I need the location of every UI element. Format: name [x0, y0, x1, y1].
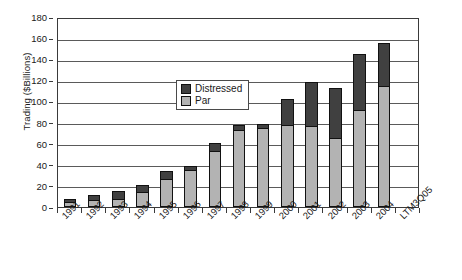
- x-axis-tick-mark: [371, 208, 372, 213]
- y-axis-tick-label: 100: [31, 98, 47, 108]
- bar-segment-par: [329, 139, 342, 207]
- trading-volume-stacked-bar-chart: Trading ($Billions) 02040608010012014016…: [0, 0, 462, 280]
- bar-segment-par: [257, 129, 270, 207]
- bar-1997: [209, 19, 222, 207]
- y-axis-tick-mark: [49, 123, 53, 124]
- bar-1992: [88, 19, 101, 207]
- bar-LTM3Q05: [402, 19, 415, 207]
- x-axis-tick-mark: [347, 208, 348, 213]
- y-axis-tick-mark: [49, 165, 53, 166]
- x-axis-tick-mark: [298, 208, 299, 213]
- y-axis-tick-label: 60: [36, 140, 47, 150]
- bar-segment-distressed: [329, 88, 342, 140]
- legend-item-par: Par: [181, 96, 242, 106]
- bar-group: [58, 19, 418, 207]
- x-axis-label-group: 1991199219931994199519961997199819992000…: [57, 214, 419, 278]
- x-axis-tick-mark: [250, 208, 251, 213]
- x-axis-tick-mark: [274, 208, 275, 213]
- legend-swatch-distressed-icon: [181, 84, 191, 94]
- legend-label-par: Par: [195, 96, 211, 106]
- bar-1993: [112, 19, 125, 207]
- legend-item-distressed: Distressed: [181, 84, 242, 94]
- x-axis-tick-mark: [57, 208, 58, 213]
- y-axis-tick-mark: [49, 60, 53, 61]
- chart-legend: Distressed Par: [176, 80, 249, 110]
- x-axis-tick-mark: [322, 208, 323, 213]
- y-axis-tick-mark: [49, 144, 53, 145]
- y-axis-tick-group: 020406080100120140160180: [0, 18, 53, 208]
- bar-segment-distressed: [378, 43, 391, 86]
- bar-segment-distressed: [209, 143, 222, 153]
- legend-swatch-par-icon: [181, 96, 191, 106]
- x-axis-tick-mark: [178, 208, 179, 213]
- bar-segment-distressed: [353, 54, 366, 111]
- y-axis-tick-label: 140: [31, 55, 47, 65]
- y-axis-tick-mark: [49, 102, 53, 103]
- y-axis-tick-mark: [49, 186, 53, 187]
- bar-1995: [160, 19, 173, 207]
- bar-segment-distressed: [160, 171, 173, 179]
- x-axis-tick-mark: [105, 208, 106, 213]
- x-axis-tick-mark: [395, 208, 396, 213]
- y-axis-tick-mark: [49, 18, 53, 19]
- y-axis-tick-label: 120: [31, 77, 47, 87]
- bar-2004: [378, 19, 391, 207]
- bar-2002: [329, 19, 342, 207]
- bar-segment-par: [233, 131, 246, 207]
- bar-1999: [257, 19, 270, 207]
- x-axis-tick-mark: [226, 208, 227, 213]
- y-axis-tick-label: 40: [36, 161, 47, 171]
- y-axis-tick-mark: [49, 81, 53, 82]
- x-axis-tick-mark: [202, 208, 203, 213]
- y-axis-tick-label: 160: [31, 34, 47, 44]
- bar-segment-par: [353, 111, 366, 207]
- plot-area: Distressed Par: [57, 18, 419, 208]
- y-axis-tick-label: 180: [31, 13, 47, 23]
- y-axis-tick-mark: [49, 39, 53, 40]
- x-axis-tick-mark: [129, 208, 130, 213]
- bar-segment-distressed: [281, 99, 294, 125]
- x-axis-tick-mark: [419, 208, 420, 213]
- bar-1991: [64, 19, 77, 207]
- x-axis-tick-mark: [81, 208, 82, 213]
- bar-segment-distressed: [305, 82, 318, 126]
- bar-2003: [353, 19, 366, 207]
- bar-1996: [184, 19, 197, 207]
- bar-segment-par: [378, 87, 391, 207]
- bar-segment-par: [281, 126, 294, 207]
- bar-1998: [233, 19, 246, 207]
- y-axis-tick-label: 0: [42, 203, 47, 213]
- x-axis-tick-mark: [154, 208, 155, 213]
- y-axis-tick-label: 20: [36, 182, 47, 192]
- bar-2001: [305, 19, 318, 207]
- y-axis-tick-mark: [49, 208, 53, 209]
- bar-2000: [281, 19, 294, 207]
- bar-segment-par: [305, 127, 318, 207]
- legend-label-distressed: Distressed: [195, 84, 242, 94]
- bar-segment-distressed: [136, 185, 149, 193]
- bar-1994: [136, 19, 149, 207]
- y-axis-tick-label: 80: [36, 119, 47, 129]
